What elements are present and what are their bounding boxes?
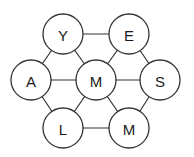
node-label: S bbox=[155, 73, 165, 90]
node-label: M bbox=[90, 73, 103, 90]
hex-letter-diagram: Y E A M S L M bbox=[0, 0, 194, 157]
node-center: M bbox=[76, 60, 116, 100]
node-label: Y bbox=[58, 27, 68, 44]
node-label: M bbox=[123, 121, 136, 138]
node-bottom-left: L bbox=[43, 108, 83, 148]
node-label: E bbox=[124, 27, 134, 44]
node-top-left: Y bbox=[43, 14, 83, 54]
node-mid-right: S bbox=[140, 60, 180, 100]
node-label: L bbox=[59, 121, 67, 138]
node-bottom-right: M bbox=[109, 108, 149, 148]
node-top-right: E bbox=[109, 14, 149, 54]
node-mid-left: A bbox=[11, 60, 51, 100]
node-label: A bbox=[26, 73, 36, 90]
